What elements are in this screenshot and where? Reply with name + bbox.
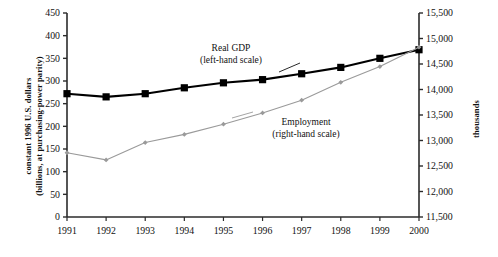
annotation-gdp-line2: (left-hand scale) xyxy=(176,55,286,67)
left-axis-tick-label: 250 xyxy=(45,98,60,109)
right-axis-tick-label: 13,500 xyxy=(426,109,453,120)
left-axis-tick-label: 450 xyxy=(45,7,60,18)
data-point-marker xyxy=(181,84,188,91)
right-axis-tick-label: 12,500 xyxy=(426,160,453,171)
left-axis-tick-label: 400 xyxy=(45,30,60,41)
x-axis-tick-label: 1999 xyxy=(370,225,390,236)
series-annotation-real-gdp: Real GDP (left-hand scale) xyxy=(176,43,286,66)
data-point-marker xyxy=(377,64,382,69)
right-axis-tick-label: 11,500 xyxy=(426,211,453,222)
annotation-emp-line1: Employment xyxy=(246,117,366,129)
data-point-marker xyxy=(337,64,344,71)
data-point-marker xyxy=(63,90,70,97)
left-axis-tick-label: 200 xyxy=(45,121,60,132)
data-point-marker xyxy=(142,90,149,97)
right-axis-tick-label: 12,000 xyxy=(426,186,453,197)
data-point-marker xyxy=(299,98,304,103)
data-point-marker xyxy=(259,76,266,83)
x-axis-tick-label: 1993 xyxy=(135,225,155,236)
data-point-marker xyxy=(220,79,227,86)
right-axis-tick-label: 14,000 xyxy=(426,84,453,95)
left-axis-tick-label: 0 xyxy=(55,211,60,222)
x-axis-tick-label: 2000 xyxy=(409,225,429,236)
annotation-gdp-line1: Real GDP xyxy=(176,43,286,55)
x-axis-tick-label: 1998 xyxy=(331,225,351,236)
right-axis-tick-label: 15,500 xyxy=(426,7,453,18)
data-point-marker xyxy=(260,111,265,116)
x-axis-tick-label: 1991 xyxy=(57,225,77,236)
series-annotation-employment: Employment (right-hand scale) xyxy=(246,117,366,140)
left-axis-tick-label: 50 xyxy=(50,189,60,200)
data-point-marker xyxy=(182,132,187,137)
x-axis-tick-label: 1997 xyxy=(292,225,312,236)
data-point-marker xyxy=(65,150,70,155)
left-axis-tick-label: 150 xyxy=(45,143,60,154)
right-axis-tick-label: 13,000 xyxy=(426,135,453,146)
data-point-marker xyxy=(103,93,110,100)
data-point-marker xyxy=(376,55,383,62)
x-axis-tick-label: 1994 xyxy=(175,225,195,236)
data-point-marker xyxy=(338,80,343,85)
left-axis-tick-label: 300 xyxy=(45,75,60,86)
data-point-marker xyxy=(298,70,305,77)
x-axis-tick-label: 1996 xyxy=(253,225,273,236)
x-axis-tick-label: 1992 xyxy=(96,225,116,236)
data-point-marker xyxy=(143,140,148,145)
right-axis-tick-label: 15,000 xyxy=(426,33,453,44)
left-axis-tick-label: 100 xyxy=(45,166,60,177)
right-axis-tick-label: 14,500 xyxy=(426,58,453,69)
left-axis-tick-label: 350 xyxy=(45,53,60,64)
x-axis-tick-label: 1995 xyxy=(214,225,234,236)
data-point-marker xyxy=(221,122,226,127)
data-point-marker xyxy=(104,157,109,162)
chart-container: constant 1996 U.S. dollars (billions, at… xyxy=(0,0,498,257)
annotation-emp-line2: (right-hand scale) xyxy=(246,129,366,141)
